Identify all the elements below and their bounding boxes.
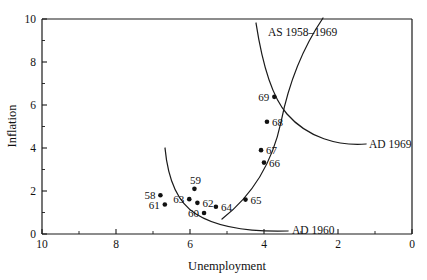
data-point-label-63: 63 xyxy=(173,193,185,205)
data-point-label-61: 61 xyxy=(149,199,160,211)
data-point-66 xyxy=(262,160,267,165)
data-point-label-67: 67 xyxy=(266,144,278,156)
y-axis-ticks xyxy=(42,19,47,234)
chart-canvas: 1086420 0246810 AS 1958–1969 AD 1969 AD … xyxy=(0,0,427,280)
curve-labels-group: AS 1958–1969 AD 1969 AD 1960 xyxy=(268,26,412,236)
x-tick-label: 6 xyxy=(187,238,193,250)
x-axis-tick-labels: 1086420 xyxy=(36,238,415,250)
data-point-62 xyxy=(195,201,200,206)
data-point-label-59: 59 xyxy=(190,174,202,186)
data-point-64 xyxy=(214,204,219,209)
y-tick-label: 2 xyxy=(30,185,36,197)
data-point-63 xyxy=(187,197,192,202)
y-tick-label: 0 xyxy=(30,228,36,240)
data-point-label-65: 65 xyxy=(251,194,263,206)
data-point-label-62: 62 xyxy=(202,197,213,209)
data-point-58 xyxy=(158,193,163,198)
phillips-curve-chart: 1086420 0246810 AS 1958–1969 AD 1969 AD … xyxy=(0,0,427,280)
ad-1960-label: AD 1960 xyxy=(292,224,335,236)
y-axis-title: Inflation xyxy=(5,104,19,148)
x-tick-label: 10 xyxy=(36,238,48,250)
data-point-label-68: 68 xyxy=(272,116,284,128)
data-point-label-64: 64 xyxy=(221,201,233,213)
data-point-60 xyxy=(202,211,207,216)
data-point-label-60: 60 xyxy=(188,207,200,219)
data-point-61 xyxy=(163,202,168,207)
data-point-65 xyxy=(243,197,248,202)
x-axis-ticks xyxy=(42,229,412,234)
as-curve-label: AS 1958–1969 xyxy=(268,26,338,38)
y-tick-label: 6 xyxy=(30,99,36,111)
data-point-label-66: 66 xyxy=(269,157,281,169)
y-tick-label: 10 xyxy=(25,13,37,25)
data-point-68 xyxy=(265,119,270,124)
y-axis-tick-labels: 0246810 xyxy=(25,13,37,240)
x-tick-label: 2 xyxy=(335,238,341,250)
x-tick-label: 4 xyxy=(261,238,267,250)
data-point-69 xyxy=(272,95,277,100)
y-tick-label: 8 xyxy=(30,56,36,68)
x-axis-title: Unemployment xyxy=(188,259,266,273)
ad-1969-label: AD 1969 xyxy=(369,138,412,150)
x-tick-label: 0 xyxy=(409,238,415,250)
data-point-67 xyxy=(259,148,264,153)
y-tick-label: 4 xyxy=(30,142,36,154)
data-point-59 xyxy=(192,187,197,192)
data-point-label-69: 69 xyxy=(258,91,270,103)
curves-group xyxy=(165,18,366,231)
x-tick-label: 8 xyxy=(113,238,119,250)
